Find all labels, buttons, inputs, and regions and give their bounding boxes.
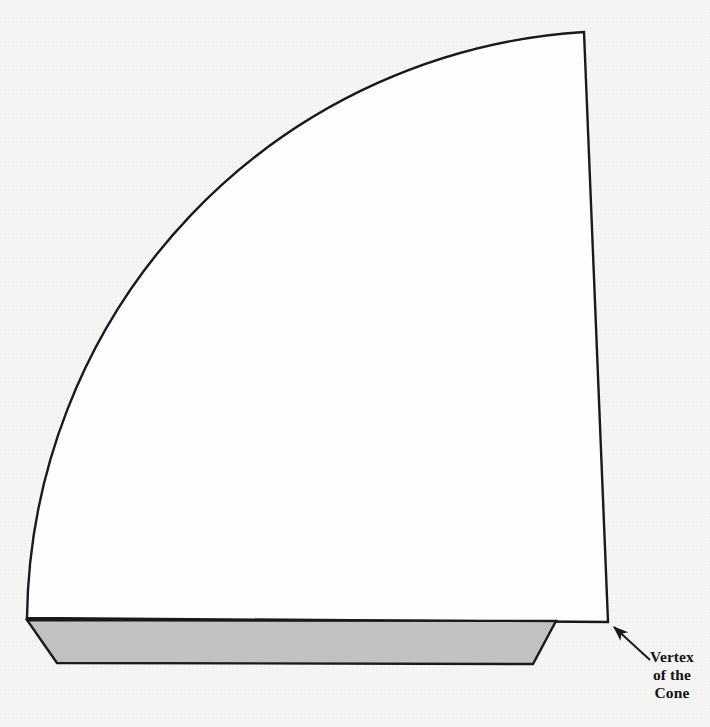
vertex-of-the-cone-label: Vertex of the Cone <box>636 648 708 702</box>
cone-base-parallelogram <box>27 620 556 664</box>
annotation-line-2: of the <box>636 666 708 684</box>
lateral-surface-sector <box>27 32 608 622</box>
cone-development-figure <box>0 0 710 727</box>
figure-canvas: Vertex of the Cone <box>0 0 710 727</box>
annotation-line-3: Cone <box>636 684 708 702</box>
annotation-line-1: Vertex <box>636 648 708 666</box>
